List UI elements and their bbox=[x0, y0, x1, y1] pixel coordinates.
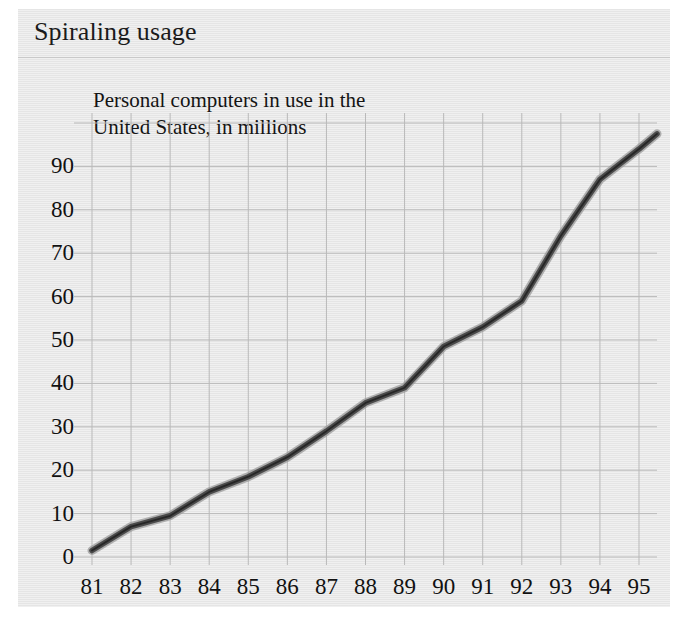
y-axis-tick-90: 90 bbox=[28, 154, 74, 177]
data-line-core bbox=[92, 134, 657, 551]
x-axis-tick-93: 93 bbox=[541, 575, 581, 598]
y-axis-tick-60: 60 bbox=[28, 285, 74, 308]
x-axis-tick-85: 85 bbox=[228, 575, 268, 598]
chart-plot-area: 0102030405060708090 81828384858687888990… bbox=[18, 9, 670, 607]
x-axis-tick-89: 89 bbox=[385, 575, 425, 598]
y-axis-tick-30: 30 bbox=[28, 415, 74, 438]
y-axis-tick-10: 10 bbox=[28, 502, 74, 525]
y-axis-tick-40: 40 bbox=[28, 371, 74, 394]
x-axis-tick-95: 95 bbox=[619, 575, 659, 598]
vertical-gridlines bbox=[92, 113, 639, 565]
y-axis-tick-80: 80 bbox=[28, 198, 74, 221]
x-axis-tick-83: 83 bbox=[150, 575, 190, 598]
data-line-series-1 bbox=[92, 134, 657, 551]
x-axis-tick-92: 92 bbox=[502, 575, 542, 598]
figure-panel: Spiraling usage Personal computers in us… bbox=[18, 9, 670, 607]
x-axis-tick-88: 88 bbox=[346, 575, 386, 598]
x-axis-tick-82: 82 bbox=[111, 575, 151, 598]
x-axis-tick-84: 84 bbox=[189, 575, 229, 598]
x-axis-tick-91: 91 bbox=[463, 575, 503, 598]
data-line-shadow bbox=[92, 134, 657, 551]
y-axis-tick-20: 20 bbox=[28, 458, 74, 481]
x-axis-tick-87: 87 bbox=[306, 575, 346, 598]
y-axis-tick-0: 0 bbox=[28, 545, 74, 568]
line-chart-svg bbox=[18, 9, 670, 607]
y-axis-tick-50: 50 bbox=[28, 328, 74, 351]
y-axis-tick-70: 70 bbox=[28, 241, 74, 264]
x-axis-tick-94: 94 bbox=[580, 575, 620, 598]
x-axis-tick-81: 81 bbox=[72, 575, 112, 598]
x-axis-tick-86: 86 bbox=[267, 575, 307, 598]
x-axis-tick-90: 90 bbox=[424, 575, 464, 598]
